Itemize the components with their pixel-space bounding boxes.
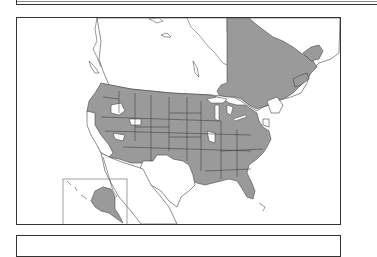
map-svg xyxy=(17,18,340,224)
cuba xyxy=(259,203,265,211)
gap-new-jersey xyxy=(263,119,269,127)
vancouver-island xyxy=(89,61,99,73)
range-map xyxy=(16,17,341,225)
top-panel xyxy=(16,0,377,5)
bottom-panel xyxy=(16,235,341,257)
aleutians xyxy=(67,181,87,199)
lake-michigan xyxy=(215,105,219,121)
